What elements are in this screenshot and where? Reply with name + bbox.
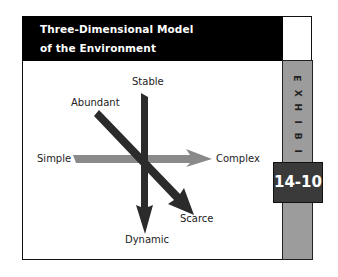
exhibit-letter: I	[290, 149, 305, 152]
exhibit-letter: B	[290, 133, 305, 140]
exhibit-letter: H	[290, 103, 305, 111]
label-abundant: Abundant	[71, 97, 120, 108]
exhibit-strip: E X H I B I T	[282, 60, 313, 260]
label-simple: Simple	[37, 153, 71, 164]
label-stable: Stable	[132, 76, 164, 87]
exhibit-letter: X	[290, 89, 305, 96]
label-dynamic: Dynamic	[125, 234, 169, 245]
label-complex: Complex	[216, 153, 260, 164]
exhibit-letter: E	[290, 75, 305, 81]
exhibit-label: E X H I B I T	[283, 71, 312, 173]
exhibit-number-badge: 14-10	[273, 162, 323, 203]
label-scarce: Scarce	[180, 213, 214, 224]
exhibit-letter: I	[290, 120, 305, 123]
